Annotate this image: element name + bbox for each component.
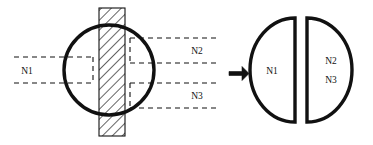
callout-n2-label: N2 [191, 46, 203, 56]
transform-arrow [229, 67, 249, 81]
right-half-disc [307, 18, 352, 122]
right-half-label-2: N3 [325, 75, 337, 85]
left-half-label: N1 [266, 66, 278, 76]
right-figure: N1 N2 N3 [250, 18, 352, 122]
diagram-canvas: N1 N2 N3 [0, 0, 373, 145]
diagram-svg: N1 N2 N3 [0, 0, 373, 145]
callout-n3: N3 [130, 83, 216, 108]
callout-n1: N1 [14, 57, 93, 83]
callout-n3-label: N3 [191, 91, 203, 101]
callout-n1-label: N1 [21, 66, 33, 76]
left-figure: N1 N2 N3 [14, 8, 216, 136]
arrow-glyph [229, 67, 249, 81]
right-half-label-1: N2 [325, 56, 337, 66]
